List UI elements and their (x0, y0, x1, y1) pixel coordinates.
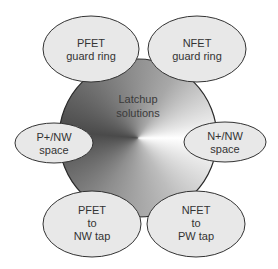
node-p-nw-space: P+/NW space (15, 123, 93, 163)
node-label-line: PFET (78, 204, 106, 216)
node-nfet-to-pw-tap: NFET to PW tap (147, 191, 245, 257)
center-label-line-2: solutions (116, 107, 160, 119)
node-label-line: guard ring (66, 50, 116, 62)
node-label-line: PFET (77, 37, 105, 49)
node-label-line: to (87, 217, 96, 229)
node-nfet-guard-ring: NFET guard ring (148, 16, 246, 82)
node-label-line: space (210, 143, 239, 155)
node-label-line: to (191, 217, 200, 229)
node-label-line: guard ring (172, 50, 222, 62)
node-label-line: N+/NW (207, 130, 243, 142)
node-label-line: PW tap (178, 230, 214, 242)
node-label-line: P+/NW (36, 131, 72, 143)
node-n-nw-space: N+/NW space (184, 122, 266, 162)
node-label-line: space (39, 144, 68, 156)
node-pfet-to-nw-tap: PFET to NW tap (43, 191, 141, 257)
latchup-diagram: Latchup solutions PFET guard ring NFET g… (0, 0, 278, 269)
node-label-line: NFET (182, 204, 211, 216)
center-label-line-1: Latchup (118, 93, 157, 105)
node-label-line: NW tap (74, 230, 111, 242)
node-pfet-guard-ring: PFET guard ring (43, 16, 139, 82)
node-label-line: NFET (183, 37, 212, 49)
